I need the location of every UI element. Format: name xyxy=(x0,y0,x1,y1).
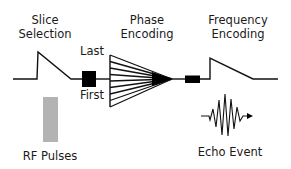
frequency-encoding-gradient xyxy=(200,58,278,79)
rf-pulse-bar xyxy=(43,97,58,142)
frequency-encoding-label-line1: Frequency xyxy=(193,13,283,27)
echo-signal xyxy=(201,94,253,136)
frequency-encoding-label-line2: Encoding xyxy=(193,27,283,41)
phase-encoding-label-line2: Encoding xyxy=(107,27,187,41)
slice-selection-label-line2: Selection xyxy=(5,27,85,41)
phase-encoding-label-line1: Phase xyxy=(107,13,187,27)
phase-encoding-fan xyxy=(110,55,172,107)
slice-selection-label-line1: Slice xyxy=(5,13,85,27)
slice-selection-label: Slice Selection xyxy=(5,13,85,41)
frequency-encoding-label: Frequency Encoding xyxy=(193,13,283,41)
first-label: First xyxy=(76,88,108,102)
frequency-prephase-block xyxy=(185,76,200,84)
slice-selection-gradient xyxy=(13,52,82,79)
phase-encoding-label: Phase Encoding xyxy=(107,13,187,41)
last-label: Last xyxy=(77,44,107,58)
echo-arrow-icon xyxy=(247,113,253,119)
echo-event-label: Echo Event xyxy=(190,145,270,159)
slice-rephase-block xyxy=(82,71,96,87)
rf-pulses-label: RF Pulses xyxy=(15,149,85,163)
echo-waveform xyxy=(201,94,249,136)
